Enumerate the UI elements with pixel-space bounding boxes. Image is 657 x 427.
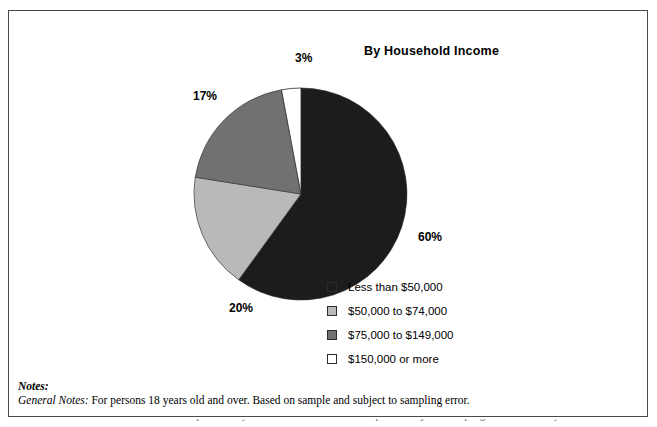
- legend-swatch-icon-150000-or-more: [327, 354, 337, 364]
- legend-swatch-icon-75000-to-149000: [327, 330, 337, 340]
- legend-item-50000-to-74000[interactable]: $50,000 to $74,000: [327, 299, 537, 323]
- notes-general-line: General Notes: For persons 18 years old …: [18, 393, 638, 408]
- legend-item-less-than-50000[interactable]: Less than $50,000: [327, 275, 537, 299]
- pie-chart-area: By Household Income 60% 20% 17% 3% Less …: [9, 11, 649, 366]
- pie-value-label-75000-to-149000: 17%: [193, 89, 217, 103]
- pie-value-label-150000-or-more: 3%: [295, 51, 312, 65]
- pie-value-label-50000-to-74000: 20%: [229, 301, 253, 315]
- chart-legend: Less than $50,000 $50,000 to $74,000 $75…: [327, 275, 537, 371]
- legend-label-150000-or-more: $150,000 or more: [348, 353, 439, 365]
- clipped-footnote-text: For persons 18 years old and over. Based…: [180, 419, 631, 421]
- notes-block: Notes: General Notes: For persons 18 yea…: [18, 379, 638, 408]
- legend-item-75000-to-149000[interactable]: $75,000 to $149,000: [327, 323, 537, 347]
- notes-general-text: For persons 18 years old and over. Based…: [89, 394, 470, 406]
- clipped-footnote-artifact: For persons 18 years old and over. Based…: [180, 419, 650, 427]
- pie-svg: [193, 86, 409, 302]
- notes-heading: Notes:: [18, 379, 638, 393]
- legend-item-150000-or-more[interactable]: $150,000 or more: [327, 347, 537, 371]
- figure-frame: By Household Income 60% 20% 17% 3% Less …: [8, 10, 648, 417]
- pie-value-label-less-than-50000: 60%: [418, 230, 442, 244]
- legend-swatch-icon-less-than-50000: [327, 282, 337, 292]
- legend-label-75000-to-149000: $75,000 to $149,000: [348, 329, 454, 341]
- legend-label-50000-to-74000: $50,000 to $74,000: [348, 305, 447, 317]
- pie-graphic: [193, 86, 409, 302]
- legend-swatch-icon-50000-to-74000: [327, 306, 337, 316]
- legend-label-less-than-50000: Less than $50,000: [348, 281, 443, 293]
- notes-general-label: General Notes:: [18, 394, 89, 406]
- chart-title: By Household Income: [364, 44, 499, 58]
